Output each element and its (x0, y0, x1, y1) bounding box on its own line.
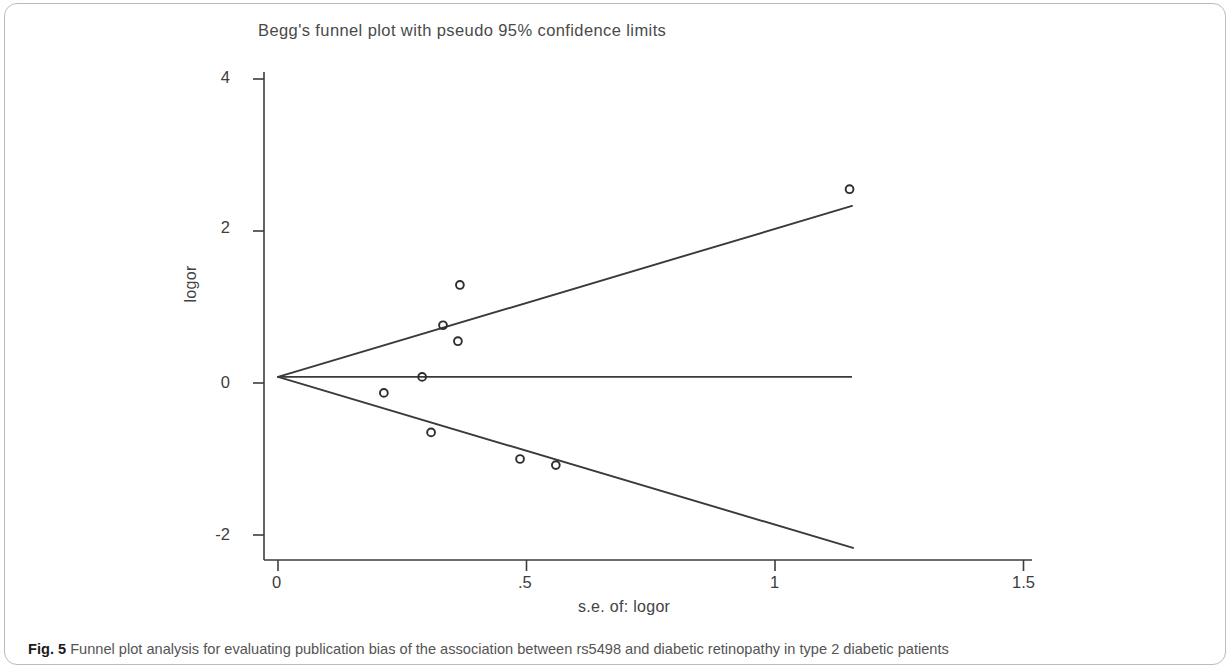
axis-ticks (253, 79, 1024, 571)
data-point (427, 429, 435, 437)
data-points (380, 185, 853, 469)
plot-canvas (0, 0, 1232, 630)
figure-container: Begg's funnel plot with pseudo 95% confi… (0, 0, 1232, 672)
data-point (456, 281, 464, 289)
data-point (846, 185, 854, 193)
data-point (454, 337, 462, 345)
caption-label: Fig. 5 (28, 641, 66, 657)
data-point (380, 389, 388, 397)
ci-lower-line (278, 377, 853, 548)
funnel-plot: Begg's funnel plot with pseudo 95% confi… (0, 0, 1232, 630)
figure-caption: Fig. 5 Funnel plot analysis for evaluati… (28, 640, 1213, 659)
ci-upper-line (278, 206, 852, 377)
data-point (516, 455, 524, 463)
data-point (552, 461, 560, 469)
caption-body: Funnel plot analysis for evaluating publ… (70, 641, 949, 657)
